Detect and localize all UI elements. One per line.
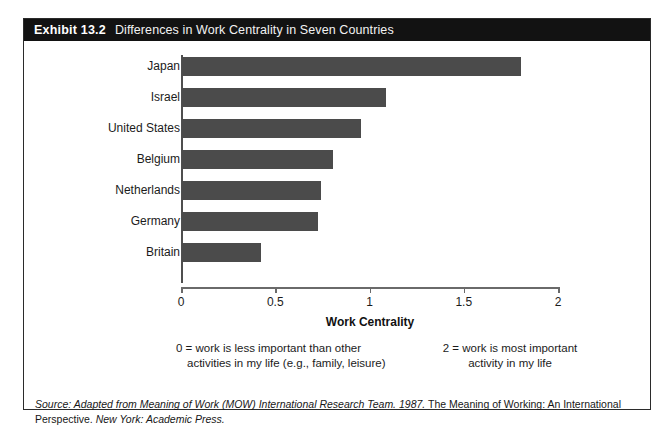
bar-track (182, 119, 559, 138)
bar-track (182, 88, 559, 107)
bar-track (182, 243, 559, 262)
bar-britain (182, 243, 261, 262)
scale-notes: 0 = work is less important than other ac… (24, 341, 652, 396)
bar-track (182, 150, 559, 169)
exhibit-title-bar: Exhibit 13.2 Differences in Work Central… (24, 19, 650, 41)
bar-israel (182, 88, 386, 107)
bar-united-states (182, 119, 361, 138)
x-tick-mark (464, 287, 466, 293)
bar-label-japan: Japan (147, 51, 180, 82)
bar-row: Belgium (24, 144, 652, 175)
source-footer: Source: Adapted from Meaning of Work (MO… (35, 397, 639, 427)
bar-row: Germany (24, 206, 652, 237)
bar-belgium (182, 150, 333, 169)
x-axis-title: Work Centrality (181, 315, 559, 329)
x-tick-label: 0 (178, 295, 185, 309)
scale-note-two: 2 = work is most important activity in m… (410, 341, 610, 371)
scale-note-two-line2: activity in my life (468, 357, 552, 369)
source-prefix: Source: Adapted from Meaning of Work (MO… (35, 398, 425, 410)
bar-germany (182, 212, 318, 231)
bar-label-britain: Britain (146, 237, 180, 268)
scale-note-zero-line3: leisure) (348, 357, 386, 369)
x-tick-label: 2 (555, 295, 562, 309)
x-tick-mark (181, 287, 183, 293)
bar-row: Netherlands (24, 175, 652, 206)
exhibit-figure-box: Exhibit 13.2 Differences in Work Central… (23, 18, 651, 410)
x-tick-mark (558, 287, 560, 293)
bar-track (182, 57, 559, 76)
exhibit-number-label: Exhibit 13.2 (34, 23, 106, 37)
scale-note-zero-line2: activities in my life (e.g., family, (187, 357, 345, 369)
bar-netherlands (182, 181, 321, 200)
x-tick-label: 1 (366, 295, 373, 309)
bar-row: Britain (24, 237, 652, 268)
bar-label-netherlands: Netherlands (115, 175, 180, 206)
bar-label-israel: Israel (151, 82, 180, 113)
bar-row: Japan (24, 51, 652, 82)
bar-label-germany: Germany (131, 206, 180, 237)
source-suffix: New York: Academic Press. (93, 413, 225, 425)
bar-japan (182, 57, 521, 76)
bar-chart-plot: Japan Israel United States Belgium (24, 51, 652, 283)
x-tick-label: 0.5 (267, 295, 284, 309)
x-tick-label: 1.5 (455, 295, 472, 309)
x-tick-mark (370, 287, 372, 293)
x-axis: 00.511.52 Work Centrality (24, 287, 652, 347)
bar-row: United States (24, 113, 652, 144)
scale-note-zero: 0 = work is less important than other ac… (176, 341, 391, 371)
exhibit-caption: Differences in Work Centrality in Seven … (115, 23, 394, 37)
scale-note-two-line1: 2 = work is most important (443, 342, 578, 354)
x-tick-mark (275, 287, 277, 293)
chart-region: Japan Israel United States Belgium (24, 41, 650, 409)
bar-track (182, 181, 559, 200)
scale-note-zero-line1: 0 = work is less important than other (176, 342, 361, 354)
bar-label-belgium: Belgium (137, 144, 180, 175)
bar-row: Israel (24, 82, 652, 113)
bar-label-united-states: United States (108, 113, 180, 144)
bar-track (182, 212, 559, 231)
